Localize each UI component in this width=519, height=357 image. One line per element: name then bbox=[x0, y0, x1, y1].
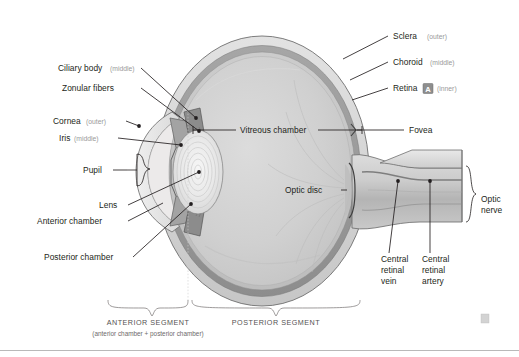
label-choroid-qualifier: (middle) bbox=[430, 59, 455, 67]
corner-watermark-icon bbox=[481, 314, 489, 323]
label-anterior-chamber: Anterior chamber bbox=[37, 216, 102, 226]
label-ciliary-body-qualifier: (middle) bbox=[110, 65, 135, 73]
leader-dot-posterior-chamber bbox=[189, 202, 193, 206]
label-choroid: Choroid bbox=[393, 57, 423, 67]
label-anterior-segment-title: ANTERIOR SEGMENT bbox=[107, 318, 190, 327]
leader-dot-crv bbox=[396, 179, 400, 183]
label-cra-line3: artery bbox=[422, 276, 444, 286]
leader-sclera bbox=[343, 36, 388, 59]
label-anterior-segment-subtitle: (anterior chamber + posterior chamber) bbox=[92, 330, 203, 338]
retina-marker-letter: A bbox=[425, 85, 431, 94]
leader-dot-iris bbox=[179, 143, 183, 147]
label-cornea-qualifier: (outer) bbox=[86, 118, 106, 126]
brace-anterior-segment bbox=[108, 300, 188, 316]
label-pupil: Pupil bbox=[83, 165, 102, 175]
label-crv-line1: Central bbox=[381, 254, 408, 264]
label-posterior-chamber: Posterior chamber bbox=[44, 252, 113, 262]
label-fovea: Fovea bbox=[409, 125, 433, 135]
label-retina-qualifier: (inner) bbox=[437, 85, 457, 93]
brace-optic-nerve bbox=[466, 166, 476, 222]
label-optic-nerve-line2: nerve bbox=[481, 205, 502, 215]
leader-cornea bbox=[126, 121, 139, 126]
leader-dot-cra bbox=[428, 179, 432, 183]
label-cra-line1: Central bbox=[422, 254, 449, 264]
label-sclera-qualifier: (outer) bbox=[427, 33, 447, 41]
leader-dot-lens bbox=[197, 170, 201, 174]
label-vitreous-chamber: Vitreous chamber bbox=[240, 125, 306, 135]
leader-dot-cornea bbox=[137, 124, 141, 128]
label-optic-disc: Optic disc bbox=[285, 185, 322, 195]
label-iris-qualifier: (middle) bbox=[74, 135, 99, 143]
label-optic-nerve-line1: Optic bbox=[481, 194, 501, 204]
leader-retina bbox=[352, 88, 388, 100]
label-iris: Iris bbox=[59, 133, 70, 143]
leader-dot-ciliary bbox=[194, 116, 198, 120]
eye-anatomy-figure: Sclera (outer) Choroid (middle) Retina A… bbox=[0, 0, 519, 357]
label-retina: Retina bbox=[393, 83, 418, 93]
label-zonular-fibers: Zonular fibers bbox=[62, 83, 114, 93]
label-lens: Lens bbox=[99, 200, 117, 210]
eye-diagram-svg: Sclera (outer) Choroid (middle) Retina A… bbox=[0, 0, 519, 357]
label-sclera: Sclera bbox=[393, 31, 417, 41]
label-cra-line2: retinal bbox=[422, 265, 445, 275]
label-posterior-segment-title: POSTERIOR SEGMENT bbox=[232, 318, 320, 327]
label-crv-line2: retinal bbox=[381, 265, 404, 275]
label-cornea: Cornea bbox=[53, 116, 81, 126]
label-ciliary-body: Ciliary body bbox=[58, 63, 103, 73]
segment-braces bbox=[108, 300, 360, 316]
label-crv-line3: vein bbox=[381, 276, 397, 286]
leader-choroid bbox=[350, 62, 388, 80]
